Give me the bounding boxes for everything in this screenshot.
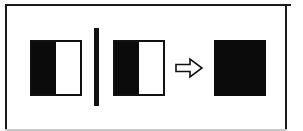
- square-left-white-half: [56, 42, 80, 94]
- square-middle-white-half: [139, 42, 163, 94]
- split-square-middle: [113, 40, 165, 96]
- frame-bottom-edge: [5, 129, 287, 131]
- square-left-black-half: [32, 42, 56, 94]
- frame-top-edge: [5, 4, 291, 6]
- arrow-right-icon: [175, 56, 203, 80]
- solid-square-right: [214, 40, 266, 96]
- vertical-divider-bar: [94, 28, 99, 106]
- frame-right-edge: [285, 4, 287, 131]
- split-square-left: [30, 40, 82, 96]
- square-middle-black-half: [115, 42, 139, 94]
- frame-left-edge: [5, 4, 7, 131]
- figure-canvas: [0, 0, 303, 131]
